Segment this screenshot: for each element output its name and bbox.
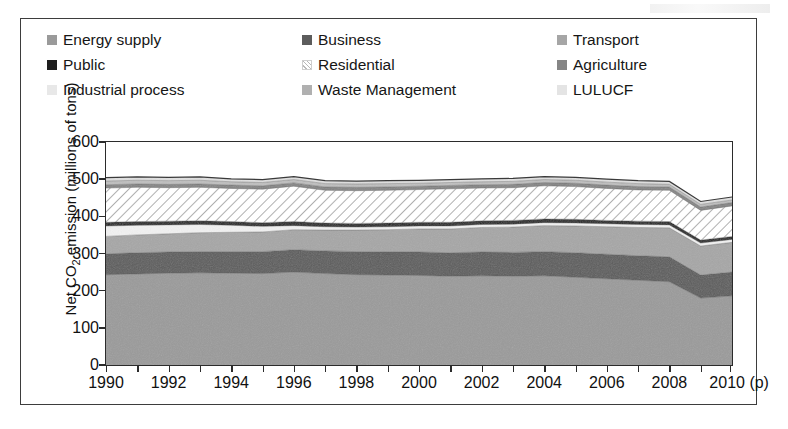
y-tick-label: 100 [72, 319, 99, 337]
x-tick-mark [482, 366, 483, 372]
area-energy-supply [106, 272, 732, 365]
legend-entry-industrial-process: Industrial process [47, 82, 302, 98]
chart-outer-frame: Energy supply Business Transport Public … [20, 18, 757, 405]
legend-swatch-energy-supply [47, 35, 57, 45]
legend-swatch-agriculture [557, 60, 567, 70]
x-tick-mark [263, 366, 264, 372]
legend-label-waste-management: Waste Management [318, 82, 456, 98]
x-axis-tick-labels: 1990199219941996199820002002200420062008… [105, 374, 733, 398]
y-tick-label: 500 [72, 170, 99, 188]
y-tick-label: 600 [72, 133, 99, 151]
legend-label-energy-supply: Energy supply [63, 32, 161, 48]
x-tick-label: 1990 [88, 374, 124, 392]
legend-entry-residential: Residential [302, 57, 557, 73]
legend-swatch-public [47, 60, 57, 70]
x-tick-mark [388, 366, 389, 372]
legend-entry-lulucf: LULUCF [557, 82, 747, 98]
x-tick-label: 2006 [589, 374, 625, 392]
x-tick-mark [169, 366, 170, 372]
plot-area [105, 141, 733, 366]
x-tick-label: 1996 [276, 374, 312, 392]
x-tick-label: 1994 [213, 374, 249, 392]
legend-entry-transport: Transport [557, 32, 747, 48]
x-tick-label: 1992 [151, 374, 187, 392]
x-tick-mark [419, 366, 420, 372]
x-tick-mark [544, 366, 545, 372]
x-tick-mark [701, 366, 702, 372]
x-tick-mark [231, 366, 232, 372]
x-tick-mark [576, 366, 577, 372]
x-tick-mark [730, 366, 731, 372]
legend-entry-business: Business [302, 32, 557, 48]
y-tick-label: 200 [72, 282, 99, 300]
legend-swatch-waste-management [302, 85, 312, 95]
x-tick-mark [513, 366, 514, 372]
x-tick-mark [325, 366, 326, 372]
y-tick-label: 0 [90, 356, 99, 374]
legend-swatch-transport [557, 35, 567, 45]
x-tick-mark [106, 366, 107, 372]
legend-label-agriculture: Agriculture [573, 57, 647, 73]
legend-entry-agriculture: Agriculture [557, 57, 747, 73]
legend-swatch-lulucf [557, 85, 567, 95]
y-tick-label: 300 [72, 245, 99, 263]
x-tick-mark [294, 366, 295, 372]
legend-entry-waste-management: Waste Management [302, 82, 557, 98]
legend-label-transport: Transport [573, 32, 639, 48]
legend-swatch-industrial-process [47, 85, 57, 95]
legend-label-lulucf: LULUCF [573, 82, 633, 98]
legend-entry-public: Public [47, 57, 302, 73]
x-tick-mark [638, 366, 639, 372]
x-tick-mark [607, 366, 608, 372]
x-tick-mark [137, 366, 138, 372]
x-tick-mark [450, 366, 451, 372]
legend-label-residential: Residential [318, 57, 395, 73]
x-tick-label: 2010 (p) [709, 374, 769, 392]
y-tick-label: 400 [72, 207, 99, 225]
x-tick-mark [200, 366, 201, 372]
x-tick-label: 2008 [652, 374, 688, 392]
x-tick-label: 2004 [526, 374, 562, 392]
stacked-area-chart [106, 142, 732, 365]
legend-swatch-business [302, 35, 312, 45]
plot-wrapper: 0100200300400500600 [105, 141, 733, 389]
figure: Energy supply Business Transport Public … [0, 0, 788, 429]
x-tick-mark [356, 366, 357, 372]
chart-legend: Energy supply Business Transport Public … [47, 27, 747, 102]
legend-entry-energy-supply: Energy supply [47, 32, 302, 48]
x-tick-mark [669, 366, 670, 372]
x-tick-label: 2000 [401, 374, 437, 392]
x-axis-tick-marks [105, 366, 733, 372]
x-tick-label: 2002 [464, 374, 500, 392]
y-axis-tick-labels: 0100200300400500600 [53, 141, 99, 366]
scan-artifact [650, 4, 770, 13]
x-tick-label: 1998 [339, 374, 375, 392]
legend-swatch-residential [302, 60, 312, 70]
legend-label-business: Business [318, 32, 381, 48]
